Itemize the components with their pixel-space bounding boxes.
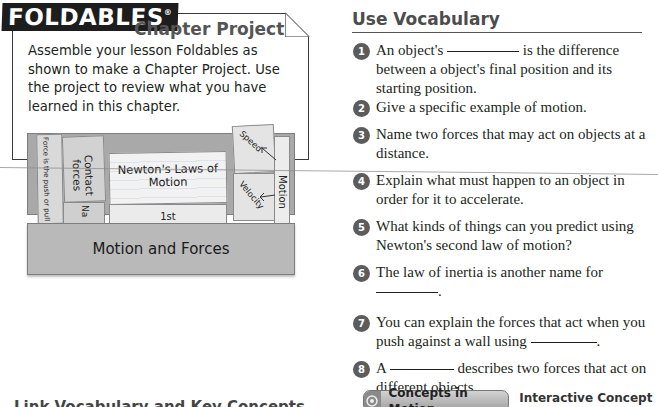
number-badge: 8 [353, 361, 370, 378]
question-text: Give a specific example of motion. [376, 99, 587, 115]
interactive-concept-map-link[interactable]: Interactive Concept Map [509, 390, 658, 407]
question-text: Explain what must happen to an object in… [376, 172, 625, 207]
use-vocabulary-title: Use Vocabulary [352, 9, 642, 33]
tab-newtons-laws: Newton's Laws of Motion [109, 151, 228, 205]
question-text: You can explain the forces that act when… [376, 314, 645, 349]
foldable-illustration: Force is the push or pull Contact forces… [25, 130, 297, 265]
concepts-in-motion: Concepts in Motion Interactive Concept M… [363, 390, 658, 407]
tab-first-law: 1st [109, 204, 227, 224]
foldables-instructions: Assemble your lesson Foldables as shown … [28, 42, 303, 116]
question-1: 1 An object's is the difference between … [352, 41, 652, 98]
page-fold-corner [285, 12, 310, 37]
question-5: 5 What kinds of things can you predict u… [352, 217, 652, 255]
tab-label: Force is the push or pull [41, 137, 50, 221]
question-text: The law of inertia is another name for [376, 264, 603, 280]
question-4: 4 Explain what must happen to an object … [352, 171, 652, 209]
number-badge: 2 [353, 100, 370, 117]
answer-blank[interactable] [531, 342, 597, 343]
concepts-in-motion-label: Concepts in Motion [381, 385, 497, 407]
number-badge: 5 [353, 219, 370, 236]
number-badge: 1 [353, 43, 370, 60]
arrow-icon [258, 142, 278, 162]
answer-blank[interactable] [376, 292, 438, 293]
question-text: A [376, 360, 386, 376]
number-badge: 3 [353, 127, 370, 144]
question-text: Name two forces that may act on objects … [376, 126, 645, 161]
tab-label: Na [80, 205, 90, 217]
tab-label: Motion [277, 175, 288, 209]
tab-label: Contact forces [70, 149, 96, 202]
question-2: 2 Give a specific example of motion. [352, 98, 652, 117]
answer-blank[interactable] [390, 369, 454, 370]
pocket-label: Motion and Forces [92, 240, 229, 258]
question-text: . [438, 283, 442, 299]
tab-label: Newton's Laws of Motion [110, 152, 227, 190]
question-text: What kinds of things can you predict usi… [376, 218, 634, 253]
tab-force-definition: Force is the push or pull [36, 134, 64, 224]
number-badge: 6 [353, 265, 370, 282]
number-badge: 7 [353, 315, 370, 332]
question-7: 7 You can explain the forces that act wh… [352, 313, 652, 351]
question-3: 3 Name two forces that may act on object… [352, 125, 652, 163]
tab-label: 1st [160, 211, 176, 222]
media-icon [364, 391, 381, 407]
foldable-pocket: Motion and Forces [27, 223, 295, 275]
number-badge: 4 [353, 173, 370, 190]
question-text: . [597, 333, 601, 349]
concepts-in-motion-button[interactable]: Concepts in Motion [363, 390, 509, 407]
link-vocabulary-heading: Link Vocabulary and Key Concepts [14, 398, 305, 407]
chapter-project-heading: Chapter Project [134, 19, 284, 39]
question-6: 6 The law of inertia is another name for… [352, 263, 652, 301]
answer-blank[interactable] [447, 51, 519, 52]
question-text: An object's [376, 42, 443, 58]
arrow-icon [258, 190, 276, 202]
